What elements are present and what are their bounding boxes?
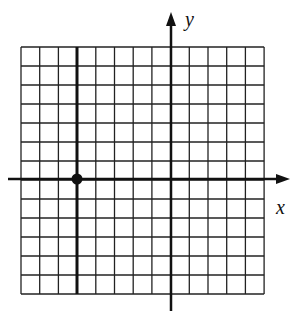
grid-lines — [21, 47, 264, 294]
x-axis-arrow-icon — [276, 174, 290, 184]
x-axis-label: x — [276, 196, 285, 219]
plotted-point — [72, 174, 83, 185]
coordinate-grid — [0, 0, 292, 311]
y-axis-arrow-icon — [166, 12, 176, 26]
y-axis-label: y — [185, 8, 194, 31]
